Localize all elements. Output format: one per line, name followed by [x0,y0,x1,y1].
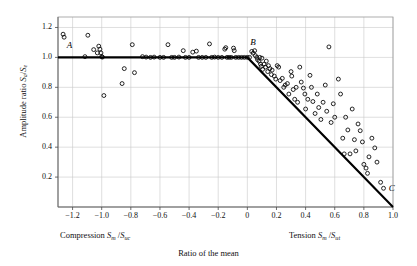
data-point [133,71,137,75]
data-point [364,166,368,170]
data-point [102,94,106,98]
y-tick-label: 1.0 [28,52,52,61]
data-point [166,43,170,47]
data-point [301,86,305,90]
x-axis-tension-text: Tension [289,230,318,240]
data-point [317,106,321,110]
data-point [367,155,371,159]
chart-canvas [0,0,417,266]
y-tick-label: 0.8 [28,82,52,91]
annotation-b: B [250,37,256,47]
data-point [298,65,302,69]
data-point [289,70,293,74]
data-point [315,92,319,96]
y-axis-sa: S [18,77,28,81]
data-point [232,46,236,50]
x-tick-label: 1.0 [373,211,413,220]
data-point [308,73,312,77]
data-point [86,33,90,37]
data-point [358,129,362,133]
data-point [346,128,350,132]
x-axis-tension-title: Tension Sm /Sut [289,230,340,241]
data-point [306,97,310,101]
y-tick-label: 0.2 [28,172,52,181]
data-point [303,92,307,96]
data-point [120,82,124,86]
data-point [325,109,329,113]
fatigue-goodman-scatter-chart: Amplitude ratio Sa/Se Compression Sm /Su… [0,0,417,266]
data-point [382,186,386,190]
x-axis-main-title: Ratio of the mean [0,248,417,258]
data-point [194,49,198,53]
data-point [323,83,327,87]
series-line-0 [58,57,393,207]
y-axis-se: S [18,68,28,72]
goodman-line [58,57,393,207]
data-point [321,100,325,104]
data-point [366,171,370,175]
data-point [319,118,323,122]
data-point [352,138,356,142]
data-point [336,77,340,81]
x-axis-tension-sut-sub: ut [335,235,340,241]
data-point [348,152,352,156]
data-point [181,49,185,53]
data-point [208,42,212,46]
y-axis-sa-sub: a [22,74,28,77]
annotation-a: A [67,40,73,50]
data-point [356,122,360,126]
data-point [373,146,377,150]
data-point [299,80,303,84]
data-point [311,100,315,104]
data-point [341,136,345,140]
y-tick-label: 0.6 [28,112,52,121]
x-axis-compression-text: Compression [60,230,107,240]
data-point [379,180,383,184]
data-point [287,92,291,96]
data-point [339,92,343,96]
y-axis-se-sub: e [22,65,28,68]
data-point [313,112,317,116]
data-point [370,136,374,140]
y-axis-title-text: Amplitude ratio [18,81,28,137]
data-point [350,107,354,111]
y-axis-title: Amplitude ratio Sa/Se [18,41,29,161]
data-point [354,149,358,153]
y-tick-label: 0.4 [28,142,52,151]
data-point [296,100,300,104]
scatter-points [61,32,385,190]
data-point [290,74,294,78]
data-point [92,48,96,52]
axis-ticks [55,27,393,210]
data-point [232,49,236,53]
annotation-c: C [389,183,395,193]
data-point [264,59,268,63]
y-tick-label: 1.2 [28,22,52,31]
x-axis-compression-title: Compression Sm /Suc [60,230,130,241]
x-axis-compression-suc-sub: uc [124,235,130,241]
data-point [122,67,126,71]
data-point [327,45,331,49]
data-point [375,160,379,164]
data-point [329,121,333,125]
